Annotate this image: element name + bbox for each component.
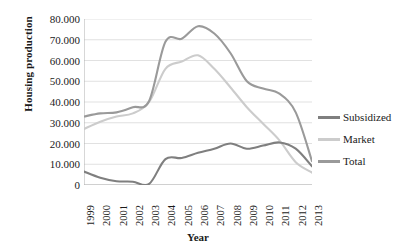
x-tick-label: 2013 (313, 205, 324, 226)
x-tick-label: 2003 (150, 205, 161, 226)
legend-item-label: Subsidized (343, 111, 391, 123)
y-tick-label: 40.000 (18, 96, 80, 108)
plot-area (84, 19, 312, 185)
y-tick-label: 10.000 (18, 158, 80, 170)
x-tick-label: 2007 (215, 205, 226, 226)
x-tick-label: 2004 (166, 205, 177, 226)
y-tick-label: 50.000 (18, 75, 80, 87)
x-axis-title: Year (84, 231, 312, 243)
legend-swatch-icon (318, 138, 340, 141)
y-tick-label: 70.000 (18, 34, 80, 46)
x-tick-label: 2012 (297, 205, 308, 226)
y-axis-tick-labels: 010.00020.00030.00040.00050.00060.00070.… (18, 12, 80, 192)
x-tick-label: 1999 (85, 205, 96, 226)
x-tick-label: 2000 (101, 205, 112, 226)
chart-legend: SubsidizedMarketTotal (318, 106, 418, 172)
x-tick-label: 2005 (183, 205, 194, 226)
x-tick-label: 2006 (199, 205, 210, 226)
series-line-total (84, 26, 312, 161)
legend-item[interactable]: Subsidized (318, 106, 418, 128)
legend-item-label: Total (343, 155, 365, 167)
x-tick-label: 2002 (134, 205, 145, 226)
line-chart: Housing production 010.00020.00030.00040… (0, 0, 419, 252)
series-line-subsidized (84, 142, 312, 185)
y-tick-label: 60.000 (18, 55, 80, 67)
y-tick-label: 30.000 (18, 117, 80, 129)
x-tick-label: 2010 (264, 205, 275, 226)
x-tick-label: 2011 (280, 205, 291, 226)
plot-svg (84, 19, 312, 185)
legend-item[interactable]: Total (318, 150, 418, 172)
x-tick-label: 2009 (248, 205, 259, 226)
x-tick-label: 2001 (118, 205, 129, 226)
legend-item-label: Market (343, 133, 375, 145)
x-axis-tick-labels: 1999200020012002200320042005200620072008… (84, 186, 316, 230)
y-tick-label: 20.000 (18, 138, 80, 150)
series-line-market (84, 55, 312, 172)
y-tick-label: 80.000 (18, 13, 80, 25)
legend-item[interactable]: Market (318, 128, 418, 150)
x-tick-label: 2008 (232, 205, 243, 226)
y-tick-label: 0 (18, 179, 80, 191)
legend-swatch-icon (318, 160, 340, 163)
legend-swatch-icon (318, 116, 340, 119)
